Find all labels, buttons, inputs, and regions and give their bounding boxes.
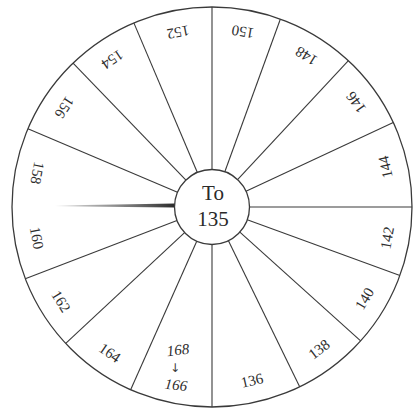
- center-label-line1: To: [202, 181, 224, 205]
- special-from-label: 168: [166, 341, 191, 359]
- sector-dial-diagram: 1501481461441421401381361641621601581561…: [0, 0, 420, 420]
- special-to-label: 166: [164, 376, 189, 394]
- down-arrow-icon: ↓: [170, 361, 180, 375]
- center-label-line2: 135: [197, 207, 229, 231]
